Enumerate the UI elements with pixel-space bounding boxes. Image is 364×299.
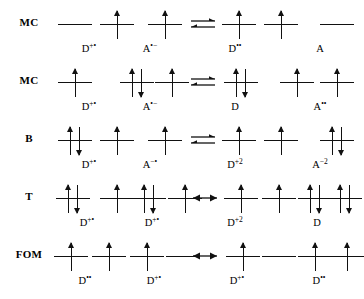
electron-spin-up-arrow xyxy=(328,126,337,156)
arrow-head xyxy=(278,10,284,16)
arrow-head xyxy=(162,126,168,132)
species-label-superscript: •• xyxy=(321,99,326,108)
electron-spin-up-arrow xyxy=(306,184,315,214)
electron-spin-up-arrow xyxy=(181,184,190,214)
electron-spin-down-arrow xyxy=(315,184,324,214)
species-label: D+2 xyxy=(200,217,270,228)
arrow-head xyxy=(169,68,175,74)
electron-spin-up-arrow xyxy=(277,10,286,40)
orbital-level: A−2 xyxy=(320,126,354,156)
arrow-head xyxy=(72,68,78,74)
species-label-superscript: +2 xyxy=(235,157,243,166)
arrow-head xyxy=(236,126,242,132)
species-label: D+• xyxy=(54,43,124,54)
species-label: A•• xyxy=(285,101,355,112)
species-label: D+2 xyxy=(200,159,270,170)
electron-spin-up-arrow xyxy=(71,68,80,98)
electron-spin-up-arrow xyxy=(143,242,152,272)
electron-spin-up-arrow xyxy=(113,10,122,40)
electron-spin-up-arrow xyxy=(64,184,73,214)
arrow-head xyxy=(182,184,188,190)
mechanism-row-label: B xyxy=(8,132,50,144)
orbital-level: D+• xyxy=(100,10,134,40)
electron-spin-up-arrow xyxy=(113,184,122,214)
arrow-head xyxy=(141,184,147,190)
arrow-head xyxy=(74,208,80,214)
arrow-head xyxy=(294,68,300,74)
mechanism-row-label: MC xyxy=(8,74,50,86)
electron-spin-up-arrow xyxy=(239,242,248,272)
mechanism-row: MCD+•A•−D••A xyxy=(0,4,361,62)
mechanism-row-label: T xyxy=(8,190,50,202)
orbital-level-line xyxy=(320,24,354,25)
orbital-level-line xyxy=(58,24,92,25)
species-label-superscript: •− xyxy=(150,41,157,50)
electron-spin-down-arrow xyxy=(149,184,158,214)
electron-spin-up-arrow xyxy=(67,242,76,272)
arrow-head xyxy=(150,208,156,214)
arrow-head xyxy=(138,92,144,98)
species-label: D+• xyxy=(202,275,272,286)
arrow-head xyxy=(337,184,343,190)
orbital-level: D+• xyxy=(226,242,260,272)
species-label: D+• xyxy=(52,217,122,228)
species-label: D+• xyxy=(54,101,124,112)
arrow-head xyxy=(114,10,120,16)
arrow-head xyxy=(312,242,318,248)
arrow-head xyxy=(233,68,239,74)
species-label-superscript: −• xyxy=(150,157,157,166)
electron-spin-up-arrow xyxy=(113,126,122,156)
species-label-superscript: +2 xyxy=(235,215,243,224)
orbital-level: A•− xyxy=(155,68,189,98)
electron-spin-up-arrow xyxy=(232,68,241,98)
orbital-level xyxy=(280,68,314,98)
species-label: D+• xyxy=(117,217,187,228)
electron-spin-down-arrow xyxy=(241,68,250,98)
arrow-head xyxy=(65,184,71,190)
orbital-level xyxy=(92,242,126,272)
arrow-head xyxy=(278,126,284,132)
orbital-level xyxy=(100,184,134,214)
mechanism-row-label: FOM xyxy=(8,248,50,260)
electron-spin-up-arrow xyxy=(235,10,244,40)
orbital-level: D•• xyxy=(54,242,88,272)
electron-spin-up-arrow xyxy=(105,242,114,272)
arrow-head xyxy=(346,208,352,214)
mechanism-row: MCD+•A•−DA•• xyxy=(0,62,361,120)
mechanism-row: FOMD••D+•D+•D•• xyxy=(0,236,361,294)
electron-spin-up-arrow xyxy=(161,10,170,40)
orbital-level xyxy=(100,126,134,156)
arrow-head xyxy=(240,242,246,248)
orbital-level: D+• xyxy=(132,184,166,214)
species-label-superscript: −2 xyxy=(320,157,328,166)
orbital-level xyxy=(224,184,258,214)
electron-spin-down-arrow xyxy=(345,184,354,214)
arrow-head xyxy=(129,68,135,74)
species-label: D•• xyxy=(50,275,120,286)
orbital-level: A xyxy=(320,10,354,40)
electron-spin-up-arrow xyxy=(66,126,75,156)
species-label-superscript: +• xyxy=(87,215,94,224)
species-label: D+• xyxy=(119,275,189,286)
orbital-level: D+2 xyxy=(262,184,296,214)
species-label-superscript: •• xyxy=(86,273,91,282)
arrow-head xyxy=(76,150,82,156)
species-label: D•• xyxy=(284,275,354,286)
electron-spin-up-arrow xyxy=(161,126,170,156)
equilibrium-arrow-icon xyxy=(188,126,218,156)
orbital-level xyxy=(222,126,256,156)
arrow-head xyxy=(114,184,120,190)
arrow-head xyxy=(276,184,282,190)
orbital-level xyxy=(298,184,332,214)
species-label: D•• xyxy=(200,43,270,54)
orbital-level: D+• xyxy=(58,126,92,156)
arrow-head xyxy=(242,92,248,98)
orbital-level: D•• xyxy=(330,242,364,272)
double-headed-arrow-icon xyxy=(190,184,220,214)
electron-spin-down-arrow xyxy=(73,184,82,214)
arrow-head xyxy=(68,242,74,248)
electron-spin-up-arrow xyxy=(343,242,352,272)
species-label-superscript: +• xyxy=(154,273,161,282)
arrow-head xyxy=(334,68,340,74)
